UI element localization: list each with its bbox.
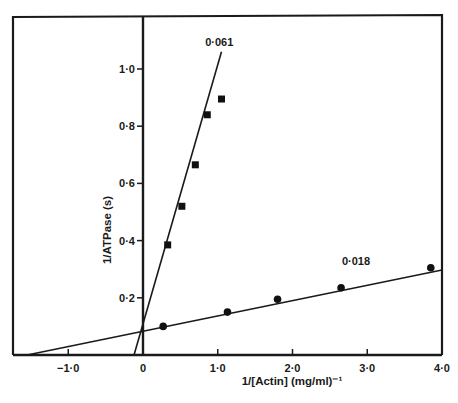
x-axis-title: 1/[Actin] (mg/ml)⁻¹: [242, 375, 343, 387]
x-tick-label: 3·0: [359, 362, 375, 374]
x-tick-label: 1·0: [210, 362, 226, 374]
x-tick-label: 2·0: [285, 362, 301, 374]
x-tick-label: 4·0: [434, 362, 450, 374]
square-marker: [218, 96, 225, 103]
x-tick-label: 0: [140, 362, 146, 374]
axis-tick-labels: −1·001·02·03·04·00·20·40·60·81·0: [57, 63, 450, 374]
lineweaver-burk-chart: −1·001·02·03·04·00·20·40·60·81·0 0·0610·…: [0, 0, 458, 403]
circle-marker: [274, 295, 282, 303]
circle-marker: [159, 323, 167, 331]
fit-line-1: [134, 52, 221, 355]
fit-line-2: [27, 270, 442, 355]
circle-marker: [337, 284, 345, 292]
plot-frame: [13, 15, 442, 355]
slope-label: 0·061: [205, 36, 233, 48]
axis-ticks: [68, 69, 367, 355]
square-marker: [178, 203, 185, 210]
slope-annotations: 0·0610·018: [205, 36, 370, 267]
circle-marker: [224, 308, 232, 316]
square-marker: [204, 111, 211, 118]
circle-marker: [427, 264, 435, 272]
square-marker: [164, 241, 171, 248]
y-tick-label: 0·2: [119, 292, 135, 304]
y-axis-title: 1/ATPase (s): [101, 196, 113, 264]
slope-label: 0·018: [342, 255, 370, 267]
square-marker: [192, 161, 199, 168]
data-markers: [159, 96, 434, 331]
y-tick-label: 1·0: [119, 63, 135, 75]
y-tick-label: 0·6: [119, 177, 135, 189]
y-tick-label: 0·4: [119, 235, 136, 247]
y-tick-label: 0·8: [119, 120, 135, 132]
x-tick-label: −1·0: [57, 362, 79, 374]
fit-lines: [27, 52, 442, 355]
